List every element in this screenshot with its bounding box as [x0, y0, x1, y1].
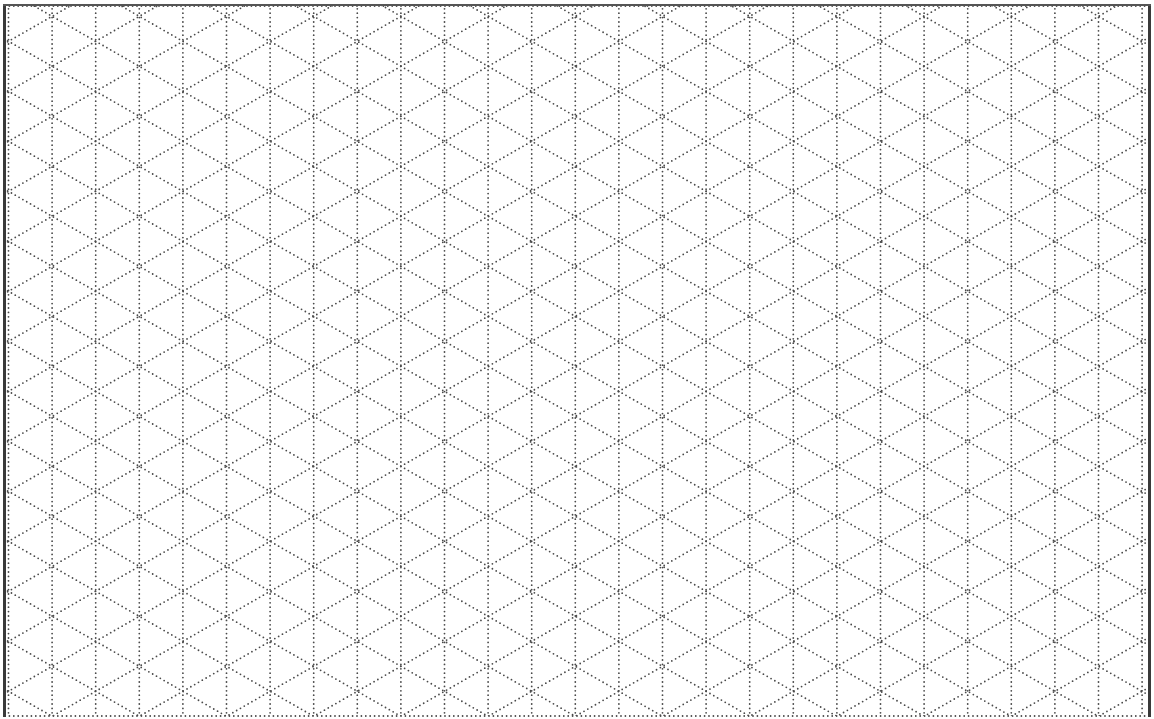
frame-top-edge — [3, 4, 1151, 6]
frame-left-edge — [3, 4, 6, 717]
frame-right-edge — [1148, 4, 1151, 717]
isometric-grid-sheet — [0, 0, 1154, 719]
grid-lines — [0, 0, 1154, 719]
isometric-dot-grid — [0, 0, 1154, 719]
